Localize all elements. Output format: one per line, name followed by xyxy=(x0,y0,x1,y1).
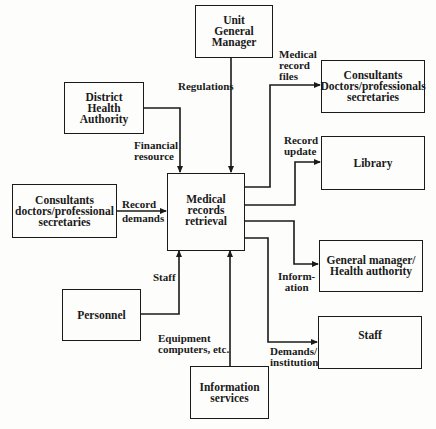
label-equipment: Equipment computers, etc. xyxy=(158,333,229,355)
label-financial-resource: Financial resource xyxy=(134,140,178,162)
box-staff: Staff xyxy=(318,316,422,369)
box-district-health-authority: District Health Authority xyxy=(64,82,144,134)
box-library: Library xyxy=(321,136,425,190)
box-consultants-left: Consultants doctors/professional secreta… xyxy=(12,184,117,238)
box-medical-records-retrieval: Medical records retrieval xyxy=(167,173,245,251)
label-medical-record-files: Medical record files xyxy=(279,49,317,82)
box-label: Unit General Manager xyxy=(212,15,257,48)
box-unit-general-manager: Unit General Manager xyxy=(195,5,273,58)
box-consultants-right: Consultants Doctors/professionals secret… xyxy=(321,60,425,113)
box-label: Staff xyxy=(358,330,382,341)
box-personnel: Personnel xyxy=(62,289,141,341)
box-label: Information services xyxy=(199,382,259,404)
label-demands-institution: Demands/ institution xyxy=(270,346,318,368)
label-record-update: Record update xyxy=(284,135,318,157)
box-label: Consultants Doctors/professionals secret… xyxy=(320,70,425,103)
box-label: Medical records retrieval xyxy=(185,194,227,227)
label-information: Inform- ation xyxy=(278,271,315,293)
label-record-demands: Record demands xyxy=(122,197,164,225)
box-general-manager-health-authority: General manager/ Health authority xyxy=(319,240,423,292)
box-label: Library xyxy=(354,158,393,169)
box-information-services: Information services xyxy=(190,366,269,419)
label-staff-in: Staff xyxy=(153,272,176,283)
edge-record-update xyxy=(244,162,320,205)
edge-information xyxy=(244,221,318,264)
box-label: General manager/ Health authority xyxy=(326,255,415,277)
box-label: Consultants doctors/professional secreta… xyxy=(15,195,114,228)
box-label: District Health Authority xyxy=(80,92,129,125)
label-regulations: Regulations xyxy=(178,81,234,92)
box-label: Personnel xyxy=(77,310,126,321)
